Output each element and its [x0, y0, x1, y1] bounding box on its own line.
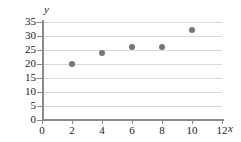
x-axis-label: x [228, 123, 233, 134]
y-tick-label-30: 30 [0, 30, 36, 41]
x-tick-label-8: 8 [150, 125, 174, 136]
x-axis-line [42, 119, 224, 121]
y-tick-label-15: 15 [0, 72, 36, 83]
y-tick-label-10: 10 [0, 86, 36, 97]
y-tick-label-text: 10 [2, 86, 36, 97]
x-tick-label-4: 4 [90, 125, 114, 136]
gridline-y-25 [42, 50, 222, 51]
gridline-y-35 [42, 22, 222, 23]
plot-area: 05101520253035 024681012 y x [0, 0, 241, 142]
gridline-y-15 [42, 78, 222, 79]
data-point [99, 50, 105, 56]
x-tick-label-10: 10 [180, 125, 204, 136]
gridline-y-10 [42, 92, 222, 93]
y-tick-label-text: 15 [2, 72, 36, 83]
gridline-y-30 [42, 36, 222, 37]
data-point [69, 61, 75, 67]
y-tick-label-5: 5 [0, 100, 36, 111]
data-point [189, 27, 195, 33]
y-tick-label-text: 30 [2, 30, 36, 41]
y-axis-line [42, 20, 44, 121]
y-tick-label-20: 20 [0, 58, 36, 69]
x-tick-label-0: 0 [30, 125, 54, 136]
y-tick-label-0: 0 [0, 114, 36, 125]
gridline-y-5 [42, 106, 222, 107]
y-tick-label-text: 0 [2, 114, 36, 125]
y-tick-label-text: 20 [2, 58, 36, 69]
y-tick-label-text: 35 [2, 16, 36, 27]
y-tick-label-text: 25 [2, 44, 36, 55]
x-tick-label-6: 6 [120, 125, 144, 136]
y-axis-label: y [44, 4, 49, 15]
x-tick-label-2: 2 [60, 125, 84, 136]
scatter-plot-figure: 05101520253035 024681012 y x [0, 0, 241, 142]
y-tick-label-text: 5 [2, 100, 36, 111]
y-tick-label-25: 25 [0, 44, 36, 55]
y-tick-label-35: 35 [0, 16, 36, 27]
